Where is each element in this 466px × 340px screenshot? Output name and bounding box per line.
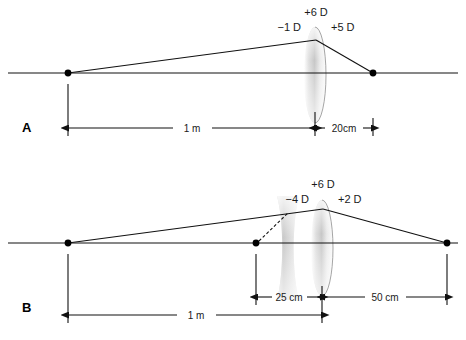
concave-lens-highlight bbox=[277, 196, 299, 300]
panel-b-concave-lens-group bbox=[277, 196, 299, 300]
object-point bbox=[65, 240, 72, 247]
dimension-1m-label: 1 m bbox=[184, 123, 201, 134]
total-power-label: +6 D bbox=[311, 178, 335, 190]
dimension-1m-label: 1 m bbox=[188, 310, 205, 321]
panel-b-letter: B bbox=[22, 300, 31, 315]
panel-a-letter: A bbox=[22, 120, 32, 135]
incident-ray bbox=[68, 40, 316, 73]
converging-lens-power-label: +2 D bbox=[338, 193, 362, 205]
panel-b-convex-lens-group bbox=[311, 200, 333, 296]
panel-a: +6 D −1 D +5 D 1 m 20cm A bbox=[8, 6, 458, 136]
dimension-1m: 1 m bbox=[69, 123, 314, 134]
diverging-lens-power-label: −4 D bbox=[285, 193, 309, 205]
total-power-label: +6 D bbox=[304, 6, 328, 18]
dimension-20cm-label: 20cm bbox=[332, 123, 356, 134]
object-point bbox=[65, 70, 72, 77]
back-surface-power-label: +5 D bbox=[331, 21, 355, 33]
dimension-25cm: 25 cm bbox=[258, 292, 320, 303]
virtual-image-point bbox=[253, 240, 260, 247]
refracted-ray bbox=[323, 209, 447, 243]
dimension-50cm-label: 50 cm bbox=[371, 292, 398, 303]
image-point bbox=[370, 70, 377, 77]
dimension-20cm: 20cm bbox=[317, 123, 371, 134]
dimension-25cm-label: 25 cm bbox=[275, 292, 302, 303]
optics-ray-diagram-figure: +6 D −1 D +5 D 1 m 20cm A bbox=[0, 0, 466, 340]
front-surface-power-label: −1 D bbox=[277, 21, 301, 33]
dimension-50cm: 50 cm bbox=[325, 292, 445, 303]
panel-b: +6 D −4 D +2 D 25 cm 50 cm 1 m B bbox=[8, 178, 458, 323]
incident-ray bbox=[68, 214, 286, 243]
image-point bbox=[444, 240, 451, 247]
dimension-1m: 1 m bbox=[69, 310, 321, 321]
